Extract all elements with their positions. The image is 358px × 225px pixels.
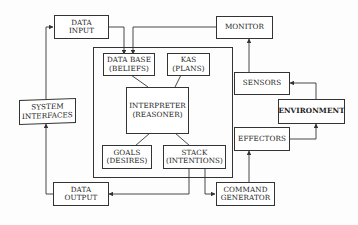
monitor-label: MONITOR bbox=[225, 23, 264, 32]
effectors-node: EFFECTORS bbox=[234, 127, 290, 151]
command-generator-label-2: GENERATOR bbox=[221, 194, 271, 203]
sensors-label: SENSORS bbox=[243, 79, 281, 88]
data-base-node: DATA BASE (BELIEFS) bbox=[103, 53, 155, 76]
stack-node: STACK (INTENTIONS) bbox=[163, 145, 226, 169]
stack-label-2: (INTENTIONS) bbox=[166, 157, 223, 166]
command-generator-node: COMMAND GENERATOR bbox=[216, 182, 275, 206]
architecture-diagram: DATA INPUT MONITOR SYSTEM INTERFACES DAT… bbox=[0, 0, 358, 225]
goals-node: GOALS (DESIRES) bbox=[102, 145, 152, 169]
interpreter-label-2: (REASONER) bbox=[132, 111, 182, 120]
interpreter-node: INTERPRETER (REASONER) bbox=[126, 87, 189, 134]
effectors-label: EFFECTORS bbox=[238, 135, 286, 144]
data-output-label-2: OUTPUT bbox=[65, 194, 98, 203]
system-interfaces-label-2: INTERFACES bbox=[22, 111, 73, 121]
data-output-node: DATA OUTPUT bbox=[53, 182, 109, 206]
system-interfaces-node: SYSTEM INTERFACES bbox=[19, 98, 76, 125]
environment-node: ENVIRONMENT bbox=[278, 99, 345, 124]
environment-label: ENVIRONMENT bbox=[278, 107, 344, 116]
goals-label-2: (DESIRES) bbox=[107, 157, 148, 166]
kas-node: KAS (PLANS) bbox=[167, 53, 210, 76]
sensors-node: SENSORS bbox=[234, 72, 290, 95]
kas-label-2: (PLANS) bbox=[172, 65, 204, 74]
data-input-label-2: INPUT bbox=[69, 27, 94, 36]
data-input-node: DATA INPUT bbox=[54, 15, 109, 39]
data-base-label-2: (BELIEFS) bbox=[109, 65, 149, 74]
monitor-node: MONITOR bbox=[216, 16, 273, 39]
